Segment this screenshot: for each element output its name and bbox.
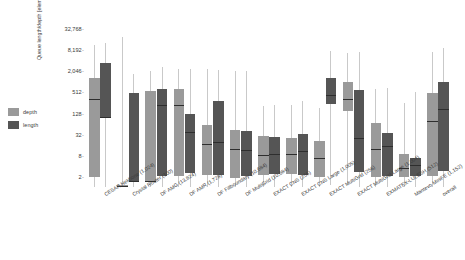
x-tick-label: EXMATEX-LULESH (512) — [385, 160, 439, 197]
x-tick-label: DF Fillboundary (10,684) — [216, 162, 268, 198]
x-axis-ticks: CESAR Nekbone (1,024)Crystal Router (100… — [0, 0, 465, 260]
chart-figure: depth length Queue length/depth [element… — [0, 0, 465, 260]
x-tick-label: overall — [441, 184, 457, 197]
x-tick-label: Mantevo MiniFE (1,152) — [413, 163, 463, 197]
x-tick-label: CESAR Nekbone (1,024) — [103, 161, 155, 197]
